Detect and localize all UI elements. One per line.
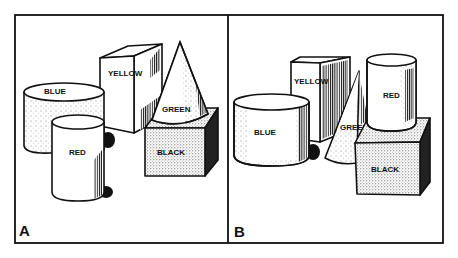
label-black-b: BLACK [371,165,399,174]
panel-b-red-cylinder: RED [367,54,416,131]
figure-canvas: YELLOW BLUE RED BLACK [0,0,458,258]
panel-label-b: B [234,223,245,240]
panel-label-a: A [19,222,30,239]
label-yellow-b: YELLOW [294,77,329,86]
label-blue-b: BLUE [254,128,276,137]
panel-a-red-cylinder: RED [52,115,104,201]
label-red: RED [69,148,86,157]
panel-a: YELLOW BLUE RED BLACK [19,42,218,239]
panel-b: YELLOW BLUE GREEN BLACK [234,54,430,240]
label-yellow: YELLOW [108,69,143,78]
label-black: BLACK [157,148,185,157]
label-red-b: RED [383,91,400,100]
panel-b-blue-cylinder: BLUE [234,94,320,166]
label-blue: BLUE [44,87,66,96]
label-green: GREEN [162,105,191,114]
